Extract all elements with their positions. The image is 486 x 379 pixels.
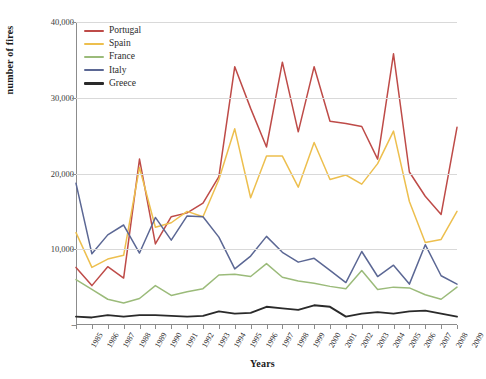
- x-tick-label: 2002: [359, 331, 375, 349]
- y-tick-label: 10,000: [22, 244, 74, 254]
- legend-label: France: [109, 50, 135, 63]
- x-tick-label: 1991: [184, 331, 200, 349]
- x-tick-label: 1988: [137, 331, 153, 349]
- chart-legend: PortugalSpainFranceItalyGreece: [84, 24, 141, 90]
- y-tick-label: 30,000: [22, 93, 74, 103]
- x-tick-label: 2004: [391, 331, 407, 349]
- y-tick-mark: [72, 174, 76, 175]
- y-tick-label: 20,000: [22, 169, 74, 179]
- x-tick-label: 1997: [280, 331, 296, 349]
- legend-item-spain[interactable]: Spain: [84, 37, 141, 50]
- x-tick-label: 2008: [454, 331, 470, 349]
- gridline: [76, 22, 457, 23]
- legend-item-greece[interactable]: Greece: [84, 77, 141, 90]
- x-tick-label: 2001: [343, 331, 359, 349]
- series-line-greece: [76, 305, 457, 317]
- x-tick-label: 1995: [248, 331, 264, 349]
- legend-label: Greece: [109, 77, 136, 90]
- legend-label: Spain: [109, 37, 131, 50]
- x-tick-label: 1993: [216, 331, 232, 349]
- x-tick-label: 1989: [153, 331, 169, 349]
- legend-swatch-icon: [84, 43, 104, 45]
- y-tick-label: 40,000: [22, 17, 74, 27]
- x-tick-label: 1987: [121, 331, 137, 349]
- legend-item-portugal[interactable]: Portugal: [84, 24, 141, 37]
- x-tick-label: 2005: [407, 331, 423, 349]
- x-tick-label: 1986: [105, 331, 121, 349]
- legend-item-france[interactable]: France: [84, 50, 141, 63]
- y-tick-mark: [72, 98, 76, 99]
- x-axis-labels: 1985198619871988198919901991199219931994…: [76, 327, 457, 373]
- y-tick-mark: [72, 249, 76, 250]
- legend-label: Portugal: [109, 24, 141, 37]
- gridline: [76, 98, 457, 99]
- x-tick-label: 1996: [264, 331, 280, 349]
- x-tick-label: 1990: [168, 331, 184, 349]
- x-tick-label: 1998: [295, 331, 311, 349]
- x-tick-label: 1992: [200, 331, 216, 349]
- gridline: [76, 249, 457, 250]
- y-tick-label: -: [22, 320, 74, 330]
- legend-label: Italy: [109, 64, 126, 77]
- x-tick-mark: [457, 325, 458, 329]
- y-tick-mark: [72, 22, 76, 23]
- x-tick-label: 1985: [89, 331, 105, 349]
- gridline: [76, 174, 457, 175]
- x-tick-label: 2006: [422, 331, 438, 349]
- series-line-spain: [76, 129, 457, 268]
- legend-item-italy[interactable]: Italy: [84, 64, 141, 77]
- x-tick-label: 2007: [438, 331, 454, 349]
- legend-swatch-icon: [84, 56, 104, 58]
- y-axis-ticks: -10,00020,00030,00040,000: [12, 0, 74, 379]
- x-tick-label: 1994: [232, 331, 248, 349]
- x-tick-label: 2000: [327, 331, 343, 349]
- legend-swatch-icon: [84, 82, 104, 85]
- x-tick-label: 1999: [311, 331, 327, 349]
- legend-swatch-icon: [84, 69, 104, 71]
- series-line-france: [76, 264, 457, 303]
- legend-swatch-icon: [84, 30, 104, 32]
- x-tick-label: 2003: [375, 331, 391, 349]
- x-tick-label: 2009: [470, 331, 486, 349]
